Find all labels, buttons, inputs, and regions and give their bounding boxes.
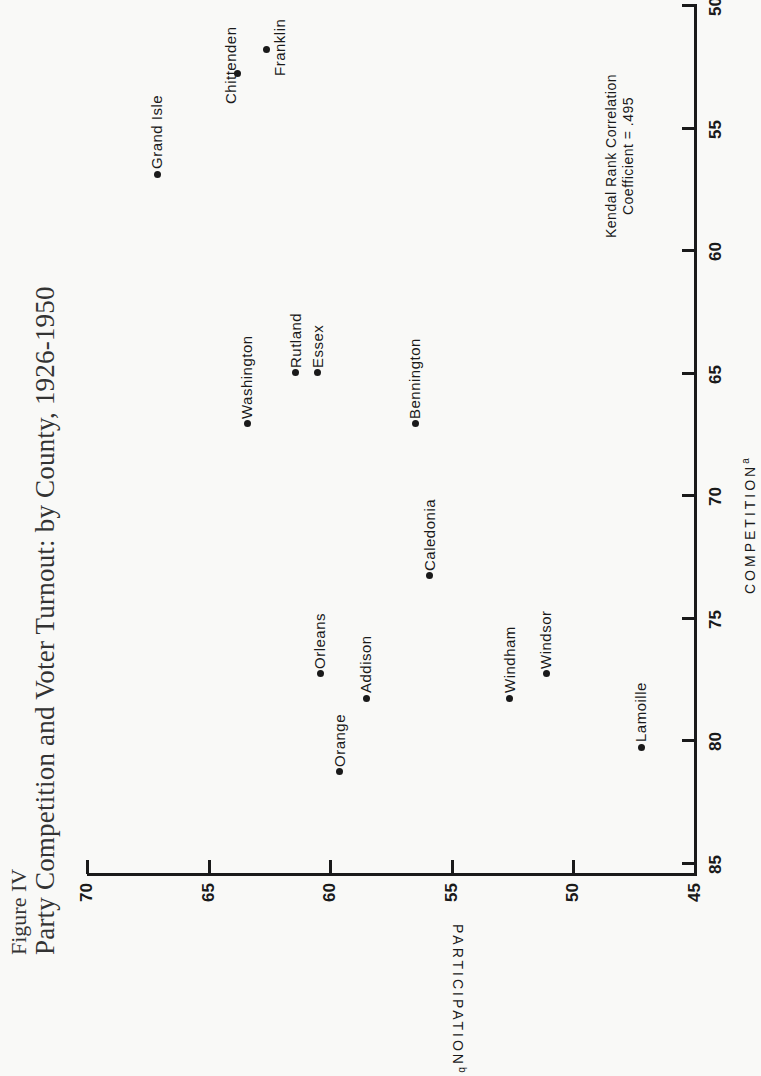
data-point bbox=[638, 744, 645, 751]
participation-tick-label: 60 bbox=[320, 883, 340, 902]
competition-axis-title: COMPETITIONa bbox=[740, 455, 758, 594]
participation-axis-line bbox=[87, 873, 697, 876]
competition-tick-label: 70 bbox=[706, 487, 726, 506]
competition-tick bbox=[682, 862, 696, 865]
participation-axis-title: PARTICIPATIONb bbox=[450, 924, 468, 1076]
data-point bbox=[543, 670, 550, 677]
data-point-label: Caledonia bbox=[421, 499, 438, 571]
competition-tick bbox=[682, 617, 696, 620]
competition-tick bbox=[682, 4, 696, 7]
competition-tick-label: 80 bbox=[706, 732, 726, 751]
participation-tick bbox=[572, 860, 575, 874]
competition-tick bbox=[682, 372, 696, 375]
competition-tick bbox=[682, 127, 696, 130]
figure-title-block: Figure IV Party Competition and Voter Tu… bbox=[8, 286, 60, 955]
competition-tick-label: 75 bbox=[706, 610, 726, 629]
data-point bbox=[314, 369, 321, 376]
data-point-label: Lamoille bbox=[632, 682, 649, 742]
note-line-1: Kendal Rank Correlation bbox=[603, 74, 620, 238]
competition-tick-label: 60 bbox=[706, 242, 726, 261]
participation-tick bbox=[329, 860, 332, 874]
competition-tick bbox=[682, 494, 696, 497]
note-line-2: Coefficient = .495 bbox=[620, 74, 637, 238]
data-point-label: Windham bbox=[501, 626, 518, 693]
data-point-label: Chittenden bbox=[222, 26, 239, 104]
participation-tick bbox=[86, 860, 89, 874]
competition-tick-label: 55 bbox=[706, 120, 726, 139]
figure-label: Figure IV bbox=[8, 286, 30, 955]
data-point bbox=[363, 695, 370, 702]
competition-tick bbox=[682, 739, 696, 742]
competition-tick-label: 85 bbox=[706, 855, 726, 874]
data-point-label: Franklin bbox=[271, 19, 288, 76]
competition-axis-line bbox=[694, 4, 697, 876]
participation-tick-label: 65 bbox=[199, 883, 219, 902]
participation-tick-label: 70 bbox=[77, 883, 97, 902]
participation-tick bbox=[451, 860, 454, 874]
competition-tick-label: 50 bbox=[706, 0, 726, 16]
data-point-label: Grand Isle bbox=[148, 95, 165, 169]
participation-tick-label: 55 bbox=[442, 883, 462, 902]
data-point bbox=[292, 369, 299, 376]
data-point bbox=[263, 46, 270, 53]
data-point-label: Rutland bbox=[287, 312, 304, 367]
data-point-label: Orleans bbox=[311, 613, 328, 669]
competition-tick bbox=[682, 249, 696, 252]
data-point bbox=[244, 420, 251, 427]
data-point bbox=[154, 171, 161, 178]
participation-tick bbox=[208, 860, 211, 874]
participation-tick-label: 45 bbox=[685, 883, 705, 902]
data-point bbox=[426, 572, 433, 579]
data-point-label: Washington bbox=[238, 335, 255, 419]
kendal-correlation-note: Kendal Rank Correlation Coefficient = .4… bbox=[603, 74, 637, 238]
competition-tick-label: 65 bbox=[706, 365, 726, 384]
data-point bbox=[506, 695, 513, 702]
data-point-label: Windsor bbox=[537, 610, 554, 669]
figure-title: Party Competition and Voter Turnout: by … bbox=[30, 286, 60, 955]
data-point-label: Addison bbox=[357, 636, 374, 694]
data-point bbox=[412, 420, 419, 427]
data-point bbox=[336, 768, 343, 775]
data-point-label: Bennington bbox=[406, 338, 423, 419]
data-point-label: Orange bbox=[331, 714, 348, 767]
data-point-label: Essex bbox=[309, 324, 326, 367]
participation-tick-label: 50 bbox=[563, 883, 583, 902]
data-point bbox=[317, 670, 324, 677]
